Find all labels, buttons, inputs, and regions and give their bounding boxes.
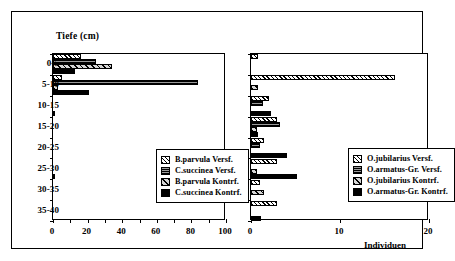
x-axis-label: 100 [218,226,232,236]
x-axis-tick [53,219,54,223]
depth-class-row [251,200,427,221]
bar [53,69,75,74]
y-axis-tick [248,200,252,201]
x-axis-tick [157,219,158,223]
x-axis-label: 40 [117,226,126,236]
legend-label: O.jubilarius Kontrf. [367,176,439,185]
depth-class-row [251,54,427,75]
legend-item: O.armatus-Gr. Kontrf. [353,186,448,197]
y-axis-label: 35-40 [38,205,60,215]
legend-label: C.succinea Kontrf. [175,188,242,197]
legend-item: O.armatus-Gr. Versf. [353,164,448,175]
figure-frame: Tiefe (cm) B.parvula Versf.C.succinea Ve… [11,11,423,249]
x-axis-tick [226,219,227,223]
x-axis-tick [70,219,71,223]
legend-swatch-icon [353,188,362,196]
y-axis-tick [50,96,54,97]
bar [251,201,277,206]
legend-label: O.armatus-Gr. Kontrf. [367,187,448,196]
y-axis-tick [50,200,54,201]
legend-item: O.jubilarius Kontrf. [353,175,448,186]
legend-swatch-icon [353,177,362,185]
legend-label: C.succinea Versf. [175,166,236,175]
x-axis-tick [174,219,175,223]
x-axis-tick [429,219,430,223]
bar [251,143,260,148]
x-axis-label: 20 [424,226,433,236]
y-axis-label: 25-30 [38,163,60,173]
legend-item: O.jubilarius Versf. [353,153,448,164]
legend-swatch-icon [161,189,170,197]
x-axis-tick [122,219,123,223]
y-axis-tick [50,75,54,76]
x-axis-label: 10 [335,226,344,236]
y-axis-tick [50,54,54,55]
y-axis-tick [248,179,252,180]
legend-swatch-icon [161,167,170,175]
y-axis-title: Tiefe (cm) [56,31,99,41]
depth-class-row [53,96,224,117]
x-axis-caption: Individuen [364,240,406,250]
depth-class-row [53,200,224,221]
y-axis-tick [248,75,252,76]
y-axis-tick [248,117,252,118]
depth-class-row [53,117,224,138]
x-axis-tick [88,219,89,223]
y-axis-tick [248,138,252,139]
bar [251,75,395,80]
depth-class-row [251,75,427,96]
bar [251,54,258,59]
x-axis-tick [251,219,252,223]
y-axis-label: 20-25 [38,142,60,152]
x-axis-label: 20 [82,226,91,236]
legend-swatch-icon [161,156,170,164]
chart-right-legend: O.jubilarius Versf.O.armatus-Gr. Versf.O… [348,148,455,202]
y-axis-tick [248,54,252,55]
legend-item: B.parvula Versf. [161,154,242,165]
bar [251,153,287,158]
y-axis-label: 15-20 [38,121,60,131]
legend-item: C.succinea Versf. [161,165,242,176]
y-axis-tick [248,158,252,159]
legend-label: O.armatus-Gr. Versf. [367,165,442,174]
legend-label: B.parvula Versf. [175,155,233,164]
x-axis-tick [340,219,341,223]
y-axis-tick [50,158,54,159]
legend-swatch-icon [353,166,362,174]
x-axis-label: 60 [151,226,160,236]
x-axis-tick [191,219,192,223]
bar [251,132,258,137]
x-axis-tick [105,219,106,223]
x-axis-tick [140,219,141,223]
y-axis-tick [50,179,54,180]
bar [251,174,297,179]
bar [53,111,55,116]
y-axis-tick [248,96,252,97]
bar [251,159,277,164]
legend-label: B.parvula Kontrf. [175,177,239,186]
bar [251,85,258,90]
bar [53,174,55,179]
bar [53,90,89,95]
x-axis-label: 80 [186,226,195,236]
x-axis-label: 0 [248,226,253,236]
legend-item: B.parvula Kontrf. [161,176,242,187]
y-axis-label: 30-35 [38,184,60,194]
legend-swatch-icon [353,155,362,163]
bar [251,216,261,221]
y-axis-label: 10-15 [38,100,60,110]
legend-label: O.jubilarius Versf. [367,154,433,163]
bar [251,111,271,116]
legend-swatch-icon [161,178,170,186]
bar [53,80,198,85]
legend-item: C.succinea Kontrf. [161,187,242,198]
depth-class-row [53,54,224,75]
depth-class-row [53,75,224,96]
x-axis-tick [209,219,210,223]
bar [251,101,263,106]
bar [251,190,264,195]
y-axis-label: 0-5 [47,58,59,68]
depth-class-row [251,117,427,138]
y-axis-label: 5-10 [42,79,59,89]
